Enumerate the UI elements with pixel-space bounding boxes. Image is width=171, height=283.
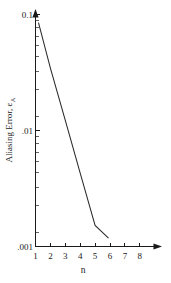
semilog-plot: 0.1 .01 .001 1 2 3 4 5 6 7 8 n Aliasing …	[0, 0, 171, 283]
y-tick-label-0: 0.1	[22, 10, 33, 20]
x-tick-label-1: 2	[48, 251, 53, 261]
data-series-line	[38, 23, 108, 238]
y-tick-label-1: .01	[22, 126, 33, 136]
x-tick-label-4: 5	[93, 251, 98, 261]
x-tick-label-0: 1	[33, 251, 38, 261]
y-tick-label-2: .001	[17, 242, 33, 252]
x-tick-label-2: 3	[63, 251, 68, 261]
x-axis-arrowhead	[154, 243, 163, 249]
x-ticks	[36, 243, 140, 247]
y-axis-title-group: Aliasing Error, εA	[4, 97, 16, 162]
y-axis-arrowhead	[32, 9, 38, 18]
x-tick-label-7: 8	[138, 251, 143, 261]
x-tick-label-3: 4	[78, 251, 83, 261]
y-major-ticks	[36, 15, 41, 247]
x-axis-title: n	[81, 265, 86, 275]
x-axis	[36, 243, 163, 249]
y-axis-title-main: Aliasing Error, ε	[4, 103, 14, 163]
x-tick-label-5: 6	[108, 251, 113, 261]
y-axis-title-subscript: A	[9, 97, 16, 102]
chart-container: 0.1 .01 .001 1 2 3 4 5 6 7 8 n Aliasing …	[0, 0, 171, 283]
y-axis-title: Aliasing Error, εA	[4, 97, 16, 162]
x-tick-label-6: 7	[123, 251, 128, 261]
y-axis	[32, 9, 38, 247]
